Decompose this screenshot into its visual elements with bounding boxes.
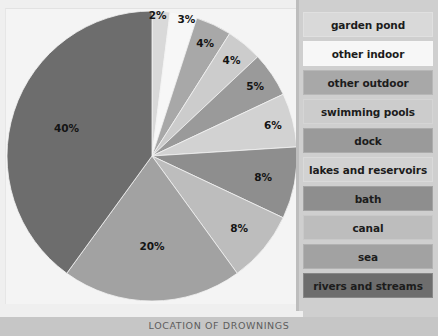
legend-item-label: other indoor — [332, 48, 405, 60]
pie-chart: 2%3%4%4%5%6%8%8%20%40% — [6, 10, 298, 302]
legend-item[interactable]: other indoor — [303, 41, 433, 66]
legend-item[interactable]: other outdoor — [303, 70, 433, 95]
legend-list: garden pondother indoorother outdoorswim… — [303, 12, 433, 302]
pie-slice-label: 6% — [264, 119, 282, 131]
legend-item-label: bath — [355, 193, 382, 205]
legend-item-label: garden pond — [331, 19, 405, 31]
pie-slice-group — [7, 11, 297, 301]
pie-slice-label: 4% — [196, 37, 214, 49]
legend-item[interactable]: lakes and reservoirs — [303, 157, 433, 182]
pie-slice-label: 8% — [230, 222, 248, 234]
legend-item-label: sea — [358, 251, 378, 263]
legend-item[interactable]: canal — [303, 215, 433, 240]
bottom-caption-bar: LOCATION OF DROWNINGS — [0, 311, 438, 336]
chart-page: 2%3%4%4%5%6%8%8%20%40% garden pondother … — [0, 0, 438, 336]
chart-caption: LOCATION OF DROWNINGS — [0, 320, 438, 331]
caption-bar-highlight-right — [303, 311, 438, 317]
legend-item[interactable]: garden pond — [303, 12, 433, 37]
pie-chart-plot-area: 2%3%4%4%5%6%8%8%20%40% — [6, 9, 298, 304]
legend-item[interactable]: sea — [303, 244, 433, 269]
pie-slice-label: 4% — [223, 54, 241, 66]
caption-bar-highlight-left — [0, 311, 303, 317]
pie-svg: 2%3%4%4%5%6%8%8%20%40% — [6, 10, 298, 302]
pie-slice-label: 5% — [246, 80, 264, 92]
pie-slice-label: 3% — [177, 13, 195, 25]
legend-item[interactable]: swimming pools — [303, 99, 433, 124]
pie-slice-label: 20% — [139, 240, 165, 252]
legend-panel: garden pondother indoorother outdoorswim… — [296, 0, 438, 311]
legend-item-label: dock — [354, 135, 382, 147]
pie-slice-label: 2% — [149, 10, 167, 21]
pie-slice-label: 40% — [54, 122, 80, 134]
legend-item[interactable]: dock — [303, 128, 433, 153]
legend-item-label: lakes and reservoirs — [309, 164, 427, 176]
legend-item-label: canal — [353, 222, 384, 234]
legend-item-label: rivers and streams — [313, 280, 423, 292]
legend-item[interactable]: rivers and streams — [303, 273, 433, 298]
legend-item-label: other outdoor — [327, 77, 408, 89]
legend-item-label: swimming pools — [321, 106, 415, 118]
legend-item[interactable]: bath — [303, 186, 433, 211]
pie-slice-label: 8% — [254, 171, 272, 183]
